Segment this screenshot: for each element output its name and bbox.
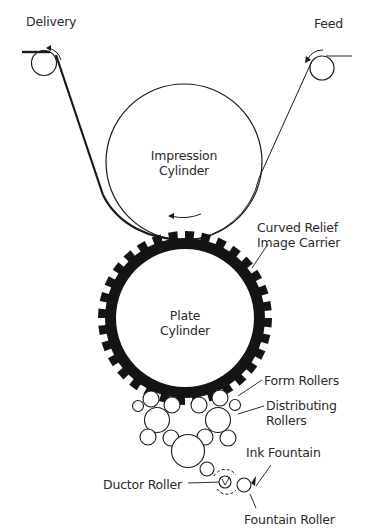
curved-relief-label: Curved Relief Image Carrier <box>257 220 340 250</box>
fountain-roller <box>237 478 251 492</box>
form-roller <box>143 391 159 407</box>
printing-press-diagram: Delivery Feed Impression Cylinder Curved… <box>0 0 370 532</box>
plate-cylinder-label: Plate Cylinder <box>135 308 235 338</box>
ink-fountain-label: Ink Fountain <box>246 445 321 460</box>
plate-cylinder-label-line1: Plate <box>135 308 235 323</box>
fountain-roller-label: Fountain Roller <box>244 512 335 527</box>
rotation-arrow-icon <box>171 214 201 218</box>
impression-cylinder-label-line1: Impression <box>134 148 234 163</box>
impression-cylinder-label-line2: Cylinder <box>134 163 234 178</box>
curved-relief-label-line1: Curved Relief <box>257 220 340 235</box>
distributing-roller <box>206 408 231 433</box>
ink-drum <box>172 435 205 468</box>
form-roller <box>191 397 207 413</box>
plate-cylinder-label-line2: Cylinder <box>135 323 235 338</box>
ductor-roller-label: Ductor Roller <box>103 477 182 492</box>
delivery-label: Delivery <box>26 14 76 29</box>
distributing-rollers-label: Distributing Rollers <box>266 398 337 428</box>
ductor-roller <box>219 476 231 488</box>
feed-roller <box>305 50 352 80</box>
distributing-rollers-label-line1: Distributing <box>266 398 337 413</box>
curved-relief-label-line2: Image Carrier <box>257 235 340 250</box>
form-roller <box>164 397 180 413</box>
distributing-rollers-label-line2: Rollers <box>266 413 337 428</box>
form-roller <box>212 390 228 406</box>
impression-cylinder-label: Impression Cylinder <box>134 148 234 178</box>
delivery-roller <box>22 45 61 76</box>
feed-label: Feed <box>314 16 343 31</box>
form-rollers-label: Form Rollers <box>264 373 339 388</box>
